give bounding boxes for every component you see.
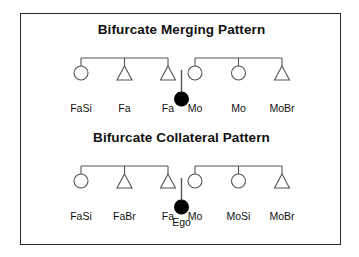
symbol-circle-mo-1 [188,66,202,80]
label-fasi: FaSi [61,103,101,114]
symbol-circle-mosi [232,174,246,188]
diagram-merging: = FaSi Fa Fa Mo Mo MoBr [21,44,342,134]
symbol-triangle-fa-3 [161,174,176,188]
panel-bifurcate-collateral: Bifurcate Collateral Pattern [21,130,342,242]
marriage-symbol-collateral: = [177,197,185,207]
diagram-collateral: = FaSi FaBr Fa Mo MoSi MoBr Ego [21,152,342,242]
symbol-triangle-mobr-2 [275,174,290,188]
label-mobr: MoBr [262,103,302,114]
label-ego: Ego [162,216,202,228]
kinship-diagram-figure: Bifurcate Merging Pattern [0,0,359,257]
symbol-triangle-fa-2 [161,66,176,80]
label-mo-1: Mo [175,103,215,114]
label-mosi: MoSi [219,211,259,222]
symbol-triangle-fabr [117,174,132,188]
label-mobr-2: MoBr [262,211,302,222]
panel-title-merging: Bifurcate Merging Pattern [21,22,342,37]
symbol-circle-mo-3 [188,174,202,188]
figure-frame: Bifurcate Merging Pattern [20,13,341,245]
label-fabr: FaBr [105,211,145,222]
panel-bifurcate-merging: Bifurcate Merging Pattern [21,22,342,130]
label-fa-1: Fa [105,103,145,114]
symbol-triangle-mobr [275,66,290,80]
symbol-circle-fasi [74,66,88,80]
symbol-circle-mo-2 [232,66,246,80]
panel-title-collateral: Bifurcate Collateral Pattern [21,130,342,145]
marriage-symbol-merging: = [177,89,185,99]
symbol-circle-fasi-2 [74,174,88,188]
label-fasi-2: FaSi [61,211,101,222]
symbol-triangle-fa-1 [117,66,132,80]
label-mo-2: Mo [219,103,259,114]
